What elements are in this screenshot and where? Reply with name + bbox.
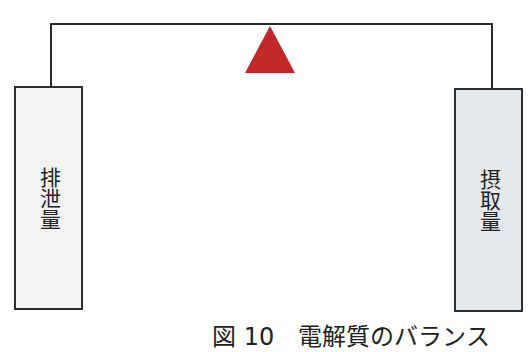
fulcrum-triangle-icon <box>245 26 295 73</box>
left-hanger-line <box>50 23 52 87</box>
intake-label: 摂取量 <box>478 169 499 232</box>
right-hanger-line <box>491 23 493 89</box>
figure-caption: 図 10 電解質のバランス <box>212 317 490 352</box>
intake-box: 摂取量 <box>454 88 523 312</box>
excretion-label: 排泄量 <box>38 167 59 230</box>
balance-beam <box>50 23 493 25</box>
excretion-box: 排泄量 <box>14 86 83 310</box>
